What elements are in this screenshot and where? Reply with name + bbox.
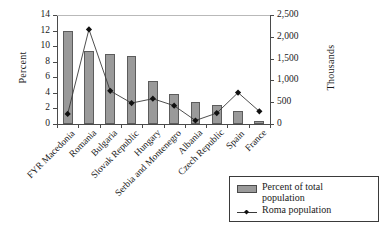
y-axis-right-title: Thousands — [325, 38, 336, 98]
y-axis-left-tick-label: 14 — [24, 9, 50, 19]
legend-label-percent-line1: Percent of total — [262, 181, 323, 192]
x-axis-tickmark — [121, 124, 122, 128]
line-marker — [192, 117, 198, 123]
x-axis-category-label: France — [243, 128, 268, 153]
y-axis-right-tick-label: 0 — [277, 118, 311, 128]
y-axis-right-tick-label: 2,000 — [277, 31, 311, 41]
y-axis-right-tick-label: 1,000 — [277, 74, 311, 84]
x-axis-tickmark — [164, 124, 165, 128]
line-marker — [171, 103, 177, 109]
roma-population-chart: Percent Thousands 02468101214 05001,0001… — [0, 0, 386, 240]
x-axis-tickmark — [100, 124, 101, 128]
x-axis-tickmark — [206, 124, 207, 128]
line-marker — [150, 96, 156, 102]
y-axis-right-line — [270, 15, 271, 124]
line-marker — [128, 100, 134, 106]
x-axis-tickmark — [57, 124, 58, 128]
y-axis-right-tick-label: 1,500 — [277, 53, 311, 63]
y-axis-left-tick-label: 4 — [24, 87, 50, 97]
y-axis-left-tick-label: 8 — [24, 56, 50, 66]
x-axis-tickmark — [227, 124, 228, 128]
chart-legend: Percent of total population Roma populat… — [229, 176, 379, 222]
plot-area — [57, 15, 270, 124]
line-marker — [86, 26, 92, 32]
line-path — [68, 29, 260, 120]
legend-label-roma: Roma population — [262, 205, 331, 216]
line-series — [57, 15, 270, 124]
legend-item-roma: Roma population — [237, 205, 331, 217]
y-axis-right-tick-label: 2,500 — [277, 9, 311, 19]
y-axis-right-tick-label: 500 — [277, 96, 311, 106]
legend-label-percent-line2: population — [262, 192, 305, 203]
line-marker — [107, 88, 113, 94]
legend-label-percent: Percent of total population — [262, 182, 323, 203]
y-axis-left-tick-label: 2 — [24, 102, 50, 112]
x-axis-tickmark — [78, 124, 79, 128]
y-axis-left-tick-label: 6 — [24, 71, 50, 81]
x-axis-tickmark — [185, 124, 186, 128]
bar-swatch-icon — [237, 185, 257, 193]
y-axis-left-tick-label: 0 — [24, 118, 50, 128]
x-axis-tickmark — [142, 124, 143, 128]
line-diamond-icon — [237, 208, 257, 217]
y-axis-left-tick-label: 10 — [24, 40, 50, 50]
x-axis-tickmark — [249, 124, 250, 128]
legend-item-percent: Percent of total population — [237, 182, 323, 203]
x-axis-tickmark — [270, 124, 271, 128]
line-marker — [65, 111, 71, 117]
y-axis-left-tick-label: 12 — [24, 25, 50, 35]
